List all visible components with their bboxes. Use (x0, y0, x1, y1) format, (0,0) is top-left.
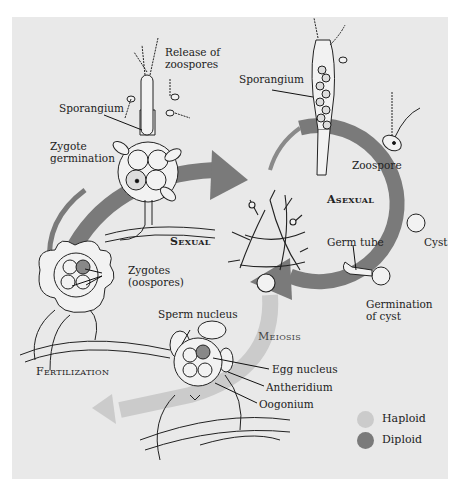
label-germination-of-cyst: Germination of cyst (366, 298, 433, 322)
label-germ-tube: Germ tube (327, 236, 384, 248)
legend-label-haploid: Haploid (382, 413, 426, 425)
label-zygotes: Zygotes (oospores) (128, 264, 184, 288)
label-antheridium: Antheridium (266, 381, 333, 393)
label-sperm-nucleus: Sperm nucleus (158, 308, 238, 320)
label-sporangium-left: Sporangium (59, 102, 124, 114)
label-oogonium: Oogonium (259, 398, 314, 410)
oogonium-with-zygotes (20, 241, 170, 370)
label-zoospore: Zoospore (352, 159, 402, 171)
legend-label-diploid: Diploid (382, 434, 422, 446)
label-release-of-zoospores: Release of zoospores (165, 46, 220, 70)
label-sexual: Sexual (170, 236, 211, 248)
label-cyst: Cyst (424, 236, 448, 248)
label-asexual: Asexual (327, 194, 374, 206)
label-egg-nucleus: Egg nucleus (272, 363, 338, 375)
label-meiosis: Meiosis (258, 331, 301, 343)
label-fertilization: Fertilization (36, 366, 109, 378)
label-zygote-germination: Zygote germination (50, 140, 115, 164)
legend-swatch-haploid (357, 411, 374, 428)
legend-swatch-diploid (357, 432, 374, 449)
label-sporangium-right: Sporangium (239, 73, 304, 85)
